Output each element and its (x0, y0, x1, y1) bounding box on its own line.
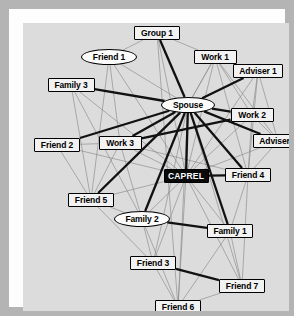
node-label: Group 1 (141, 29, 173, 38)
edge-spouse-caprel (186, 113, 188, 169)
edge-family2-family1 (167, 222, 207, 227)
node-label: Family 2 (125, 215, 158, 224)
graph-canvas: Group 1Friend 1Work 1Adviser 1Family 3Sp… (23, 23, 289, 311)
node-family3[interactable]: Family 3 (48, 78, 95, 92)
node-family1[interactable]: Family 1 (207, 224, 253, 238)
node-label: Work 1 (201, 53, 229, 62)
node-friend7[interactable]: Friend 7 (219, 279, 265, 293)
node-label: Family 3 (54, 81, 87, 90)
node-label: Spouse (173, 101, 203, 110)
node-spouse[interactable]: Spouse (161, 97, 215, 113)
node-label: Friend 1 (93, 53, 125, 62)
node-family2[interactable]: Family 2 (114, 211, 170, 227)
edge-family2-friend3 (144, 227, 151, 256)
edge-spouse-work1 (192, 64, 211, 97)
network-diagram-figure: Group 1Friend 1Work 1Adviser 1Family 3Sp… (0, 0, 294, 316)
edge-spouse-family3 (95, 89, 165, 101)
edge-spouse-friend2 (80, 111, 169, 138)
edge-adviser1-friend4 (249, 78, 258, 168)
node-label: Family 1 (213, 227, 246, 236)
node-label: Adviser 1 (239, 67, 276, 76)
edge-friend1-spouse (121, 64, 176, 98)
node-friend3[interactable]: Friend 3 (130, 256, 176, 270)
node-label: Adviser 2 (259, 137, 289, 146)
node-label: Friend 7 (226, 282, 258, 291)
node-adviser2[interactable]: Adviser 2 (253, 134, 289, 148)
edge-adviser2-friend4 (254, 148, 272, 168)
node-label: Friend 4 (232, 171, 264, 180)
node-label: Work 3 (106, 139, 134, 148)
edge-family1-friend7 (232, 238, 241, 279)
edge-adviser1-caprel (191, 78, 253, 169)
node-label: Friend 3 (137, 259, 169, 268)
edge-group1-friend1 (123, 40, 143, 50)
edge-caprel-family1 (192, 183, 225, 224)
edge-friend2-friend5 (61, 152, 86, 193)
node-label: Friend 6 (162, 303, 194, 311)
figure-mat: Group 1Friend 1Work 1Adviser 1Family 3Sp… (9, 9, 285, 307)
edge-spouse-work2 (212, 109, 231, 112)
node-work1[interactable]: Work 1 (194, 50, 237, 64)
edge-group1-work1 (174, 40, 198, 50)
node-work3[interactable]: Work 3 (99, 136, 142, 150)
node-friend1[interactable]: Friend 1 (81, 49, 137, 65)
edge-work3-family2 (122, 150, 140, 211)
edge-friend7-friend6 (199, 293, 220, 300)
edge-friend2-work3 (80, 144, 99, 145)
node-label: Work 2 (238, 111, 266, 120)
edge-spouse-adviser1 (202, 78, 244, 98)
node-friend4[interactable]: Friend 4 (225, 168, 271, 182)
node-friend2[interactable]: Friend 2 (34, 138, 80, 152)
node-group1[interactable]: Group 1 (134, 26, 180, 40)
node-label: Friend 2 (41, 141, 73, 150)
node-label: Friend 5 (75, 196, 107, 205)
edge-friend2-caprel (80, 151, 164, 171)
edge-spouse-group1 (160, 40, 185, 97)
edge-friend4-family1 (232, 182, 246, 224)
edge-friend5-family2 (110, 207, 125, 213)
edge-friend3-friend6 (157, 270, 174, 300)
node-friend5[interactable]: Friend 5 (68, 193, 114, 207)
node-work2[interactable]: Work 2 (231, 108, 274, 122)
node-label: CAPREL (168, 172, 204, 181)
node-adviser1[interactable]: Adviser 1 (233, 64, 283, 78)
node-friend6[interactable]: Friend 6 (155, 300, 201, 311)
node-caprel[interactable]: CAPREL (164, 169, 209, 183)
